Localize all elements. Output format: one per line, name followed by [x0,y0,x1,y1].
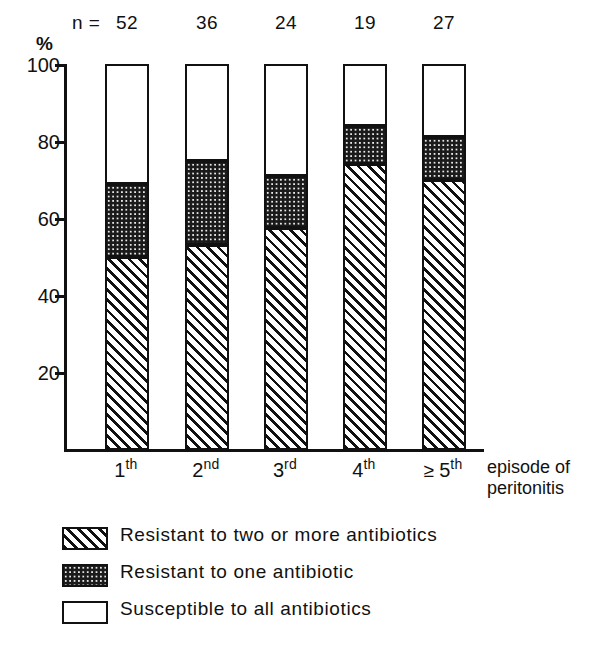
n-value-1: 52 [105,12,149,34]
n-equals-label: n = [72,12,100,34]
n-value-2: 36 [185,12,229,34]
bar-segment-3-1 [264,228,308,450]
y-tick-label-100: 100 [14,54,60,77]
bar-group-5 [422,64,466,450]
bar-segment-5-2 [422,137,466,179]
x-category-label-4: 4th [319,456,409,482]
bar-segment-2-2 [185,161,229,246]
bar-group-3 [264,64,308,450]
y-tick-label-60: 60 [14,208,60,231]
x-axis-caption: episode of peritonitis [487,457,570,499]
bar-segment-2-1 [185,245,229,450]
y-axis-line [64,64,67,452]
x-category-label-2: 2nd [161,456,251,482]
x-category-label-5: ≥ 5th [398,456,488,482]
stacked-bar-chart-figure: n = 52 36 24 19 27 % 100 80 60 40 20 1th… [0,0,616,651]
bar-segment-1-1 [105,257,149,450]
x-category-suffix-1: th [125,456,137,472]
bar-group-4 [343,64,387,450]
x-category-suffix-4: th [363,456,375,472]
y-tick-label-20: 20 [14,362,60,385]
x-axis-caption-line-2: peritonitis [487,478,570,499]
legend-item-susceptible-all: Susceptible to all antibiotics [62,598,582,635]
legend-label-susceptible-all: Susceptible to all antibiotics [120,598,371,620]
legend-item-resistant-two-or-more: Resistant to two or more antibiotics [62,524,582,561]
x-category-number-2: 2 [192,459,203,481]
bar-segment-3-3 [264,64,308,176]
legend-swatch-open-icon [62,601,108,624]
x-category-label-3: 3rd [240,456,330,482]
bar-group-2 [185,64,229,450]
x-category-suffix-5: th [450,456,462,472]
legend-label-resistant-two-or-more: Resistant to two or more antibiotics [120,524,437,546]
legend-label-resistant-one: Resistant to one antibiotic [120,561,354,583]
n-value-4: 19 [343,12,387,34]
x-category-number-3: 3 [273,459,284,481]
x-axis-caption-line-1: episode of [487,457,570,478]
x-category-number-5: 5 [439,459,450,481]
bar-segment-4-1 [343,164,387,450]
x-category-number-1: 1 [114,459,125,481]
bar-segment-4-3 [343,64,387,126]
n-value-5: 27 [422,12,466,34]
legend-swatch-stipple-icon [62,564,108,587]
bar-segment-4-2 [343,126,387,165]
bar-segment-5-1 [422,180,466,450]
y-tick-label-40: 40 [14,285,60,308]
x-category-number-4: 4 [352,459,363,481]
bar-segment-2-3 [185,64,229,161]
legend: Resistant to two or more antibiotics Res… [62,524,582,635]
bar-segment-1-3 [105,64,149,184]
legend-swatch-hatch-icon [62,527,108,550]
n-value-3: 24 [264,12,308,34]
x-category-label-1: 1th [81,456,171,482]
bar-segment-1-2 [105,184,149,257]
x-category-prefix-5: ≥ [423,460,439,481]
bar-group-1 [105,64,149,450]
bar-segment-3-2 [264,176,308,228]
y-tick-label-80: 80 [14,131,60,154]
legend-item-resistant-one: Resistant to one antibiotic [62,561,582,598]
bar-segment-5-3 [422,64,466,137]
x-category-suffix-2: nd [203,456,219,472]
x-category-suffix-3: rd [284,456,297,472]
y-axis-percent-symbol: % [36,33,53,55]
